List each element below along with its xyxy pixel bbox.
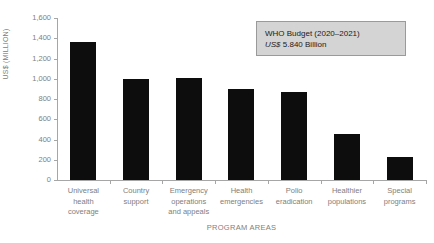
x-axis-category-label-line: operations <box>162 197 215 208</box>
y-axis-tick-label: 800 <box>38 94 51 103</box>
bar-chart-figure: US$ (MILLION) 1,6001,4001,2001,000800600… <box>0 0 434 243</box>
budget-annotation-line-1: WHO Budget (2020–2021) <box>265 28 405 39</box>
bar-slot <box>110 18 163 180</box>
x-axis-category-label-line: eradication <box>268 197 321 208</box>
y-axis-tick-label: 600 <box>38 114 51 123</box>
x-axis-tick-mark <box>162 180 163 184</box>
budget-annotation-box: WHO Budget (2020–2021) US$ 5.840 Billion <box>256 21 406 56</box>
x-axis-category-label-line: populations <box>321 197 374 208</box>
x-axis-title: PROGRAM AREAS <box>57 223 426 232</box>
x-axis-category-labels: UniversalhealthcoverageCountrysupportEme… <box>57 186 426 226</box>
y-axis-title: US$ (MILLION) <box>2 0 9 109</box>
y-axis-tick-label: 0 <box>47 175 51 184</box>
x-axis-tick-mark <box>110 180 111 184</box>
y-axis-tick-label: 1,600 <box>32 13 51 22</box>
bar <box>228 89 254 180</box>
x-axis-category-label-line: Emergency <box>162 186 215 197</box>
bar-slot <box>57 18 110 180</box>
x-axis-category-label-line: support <box>110 197 163 208</box>
x-axis-tick-mark <box>215 180 216 184</box>
x-axis-category-label-line: and appeals <box>162 207 215 218</box>
budget-amount-label: 5.840 Billion <box>281 40 327 49</box>
x-axis-category-label-line: Special <box>373 186 426 197</box>
x-axis-category-label-line: Health <box>215 186 268 197</box>
x-axis-category-label-line: emergencies <box>215 197 268 208</box>
y-axis-tick-label: 1,200 <box>32 54 51 63</box>
x-axis-category-label: Universalhealthcoverage <box>57 186 110 218</box>
budget-currency-label: US$ <box>265 40 281 49</box>
x-axis-category-label-line: health <box>57 197 110 208</box>
bar <box>387 157 413 180</box>
x-axis-category-label: Specialprograms <box>373 186 426 207</box>
y-axis-tick-label: 400 <box>38 135 51 144</box>
x-axis-tick-mark <box>426 180 427 184</box>
x-axis-category-label-line: Healthier <box>321 186 374 197</box>
x-axis-category-label: Healthierpopulations <box>321 186 374 207</box>
budget-annotation-line-2: US$ 5.840 Billion <box>265 39 405 50</box>
bar <box>281 92 307 180</box>
y-axis-tick-label: 1,000 <box>32 74 51 83</box>
x-axis-category-label-line: coverage <box>57 207 110 218</box>
x-axis-category-label-line: programs <box>373 197 426 208</box>
x-axis-tick-mark <box>268 180 269 184</box>
y-axis-tick-label: 1,400 <box>32 33 51 42</box>
x-axis-category-label-line: Country <box>110 186 163 197</box>
bar <box>176 78 202 180</box>
bar <box>123 79 149 180</box>
y-axis-tick-label: 200 <box>38 155 51 164</box>
bar <box>70 42 96 181</box>
bar-slot <box>162 18 215 180</box>
y-axis-tick-mark <box>54 180 57 181</box>
x-axis-tick-mark <box>373 180 374 184</box>
x-axis-tick-mark <box>321 180 322 184</box>
bar <box>334 134 360 180</box>
x-axis-category-label: Polioeradication <box>268 186 321 207</box>
x-axis-category-label: Emergencyoperationsand appeals <box>162 186 215 218</box>
x-axis-category-label-line: Universal <box>57 186 110 197</box>
x-axis-line <box>57 180 426 181</box>
x-axis-category-label: Healthemergencies <box>215 186 268 207</box>
x-axis-category-label-line: Polio <box>268 186 321 197</box>
x-axis-category-label: Countrysupport <box>110 186 163 207</box>
